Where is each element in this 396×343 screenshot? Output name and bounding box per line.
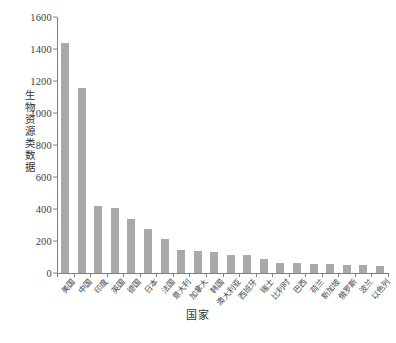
- x-axis-tick-mark: [239, 273, 240, 277]
- bar: [326, 264, 334, 273]
- bar: [94, 206, 102, 273]
- x-axis-tick-label: 美国: [59, 276, 78, 295]
- x-axis-tick-mark: [289, 273, 290, 277]
- x-axis-tick-mark: [256, 273, 257, 277]
- bar: [78, 88, 86, 273]
- x-axis-tick-label: 英国: [108, 276, 127, 295]
- x-axis-tick-mark: [57, 273, 58, 277]
- figure-caption: [0, 335, 396, 343]
- y-axis-tick-mark: [53, 17, 57, 18]
- x-axis-tick-label: 印度: [92, 276, 111, 295]
- x-axis-tick-mark: [388, 273, 389, 277]
- x-axis-tick-mark: [371, 273, 372, 277]
- bar: [144, 229, 152, 273]
- x-axis-tick-mark: [173, 273, 174, 277]
- bar: [276, 263, 284, 273]
- bar: [310, 264, 318, 273]
- plot-area: 02004006008001000120014001600: [57, 17, 388, 273]
- bar: [376, 266, 384, 273]
- x-axis-tick-mark: [206, 273, 207, 277]
- bar: [61, 43, 69, 273]
- bar: [243, 255, 251, 273]
- y-axis-title: 生物资源类数据: [22, 90, 36, 174]
- bar: [111, 208, 119, 273]
- x-axis-tick-mark: [338, 273, 339, 277]
- x-axis-tick-mark: [90, 273, 91, 277]
- y-axis-tick-mark: [53, 209, 57, 210]
- bar: [343, 265, 351, 273]
- bar: [177, 250, 185, 273]
- bar: [359, 265, 367, 273]
- bar: [194, 251, 202, 273]
- x-axis-tick-mark: [74, 273, 75, 277]
- x-axis-tick-label: 德国: [125, 276, 144, 295]
- x-axis-tick-mark: [305, 273, 306, 277]
- y-axis-tick-mark: [53, 49, 57, 50]
- y-axis-tick-mark: [53, 241, 57, 242]
- x-axis-tick-mark: [140, 273, 141, 277]
- y-axis-tick-mark: [53, 81, 57, 82]
- y-axis-tick-mark: [53, 177, 57, 178]
- bar-chart-figure: 生物资源类数据 02004006008001000120014001600 国家…: [0, 0, 396, 343]
- bar: [210, 252, 218, 273]
- x-axis-tick-label: 中国: [75, 276, 94, 295]
- x-axis-tick-mark: [189, 273, 190, 277]
- x-axis-tick-mark: [355, 273, 356, 277]
- bar: [161, 239, 169, 273]
- bar: [260, 259, 268, 273]
- x-axis-tick-mark: [223, 273, 224, 277]
- x-axis-tick-mark: [156, 273, 157, 277]
- x-axis-tick-mark: [123, 273, 124, 277]
- x-axis-tick-label: 巴西: [290, 276, 309, 295]
- x-axis-tick-mark: [107, 273, 108, 277]
- x-axis-tick-mark: [322, 273, 323, 277]
- bar: [127, 219, 135, 273]
- bar: [293, 263, 301, 273]
- x-axis-tick-label: 日本: [141, 276, 160, 295]
- y-axis-tick-mark: [53, 113, 57, 114]
- bar: [227, 255, 235, 273]
- x-axis-title: 国家: [0, 306, 396, 322]
- x-axis-tick-mark: [272, 273, 273, 277]
- y-axis-tick-mark: [53, 145, 57, 146]
